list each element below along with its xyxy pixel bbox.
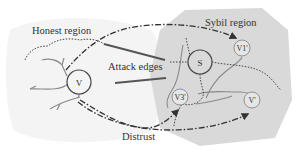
- node-s: S: [188, 50, 212, 74]
- distrust-label: Distrust: [122, 132, 155, 143]
- node-v1-label: V1': [236, 44, 248, 53]
- sybil-region-area: [150, 8, 292, 146]
- node-v-label: V: [76, 78, 83, 88]
- node-v1: V1': [234, 40, 250, 56]
- node-v3: V3': [172, 89, 188, 105]
- node-v: V: [67, 70, 91, 94]
- attack-edges-label: Attack edges: [108, 62, 163, 73]
- honest-region-label: Honest region: [32, 26, 91, 37]
- node-s-label: S: [197, 58, 202, 68]
- sybil-region-label: Sybil region: [205, 18, 257, 29]
- node-vprime-label: V': [248, 96, 256, 105]
- node-v3-label: V3': [174, 93, 186, 102]
- node-vprime: V': [244, 92, 260, 108]
- sybil-attack-diagram: V S V1' V3' V' Honest region Sybil regio…: [0, 0, 300, 151]
